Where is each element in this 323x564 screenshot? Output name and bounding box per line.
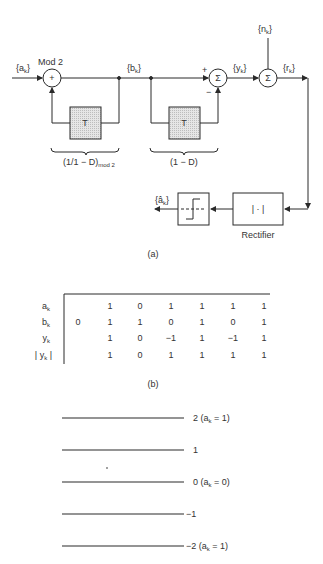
delay2-label: T — [181, 118, 187, 128]
rectifier-label: Rectifier — [241, 230, 274, 240]
feedback-line — [101, 78, 119, 123]
svg-text:1: 1 — [199, 350, 204, 360]
sequence-table: ak 1 0 1 1 1 1 bk 0 1 1 0 1 0 1 yk 1 0 −… — [35, 294, 270, 389]
mod2-label: Mod 2 — [38, 57, 63, 67]
precoder-brace — [51, 148, 119, 155]
svg-text:1: 1 — [107, 317, 112, 327]
svg-text:| yk |: | yk | — [35, 350, 52, 361]
svg-text:1: 1 — [107, 301, 112, 311]
table-row-yk: yk 1 0 −1 1 −1 1 — [43, 333, 267, 344]
level-label-minus2: −2 (ak = 1) — [186, 541, 228, 552]
level-label-minus1: −1 — [186, 509, 196, 519]
feedforward-line — [151, 78, 169, 123]
caption-b: (b) — [148, 379, 159, 389]
svg-text:1: 1 — [230, 350, 235, 360]
sum1-symbol: Σ — [215, 73, 221, 83]
encoder-label: (1 − D) — [170, 157, 198, 167]
svg-text:1: 1 — [137, 317, 142, 327]
table-row-bk: bk 0 1 1 0 1 0 1 — [42, 317, 267, 328]
output-label: {âk} — [155, 195, 169, 206]
svg-text:1: 1 — [261, 350, 266, 360]
svg-text:0: 0 — [230, 317, 235, 327]
svg-text:−1: −1 — [166, 333, 176, 343]
encoder-brace — [150, 148, 218, 155]
svg-text:1: 1 — [199, 301, 204, 311]
duobinary-system-figure: {ak} Mod 2 + T T (1/1 − D)mod 2 (1 − D) … — [0, 0, 323, 564]
y-label: {yk} — [233, 63, 247, 74]
svg-text:1: 1 — [230, 301, 235, 311]
input-label: {ak} — [16, 63, 30, 74]
table-row-abs-yk: | yk | 1 0 1 1 1 1 — [35, 350, 267, 361]
svg-text:1: 1 — [261, 333, 266, 343]
svg-text:1: 1 — [261, 301, 266, 311]
minus-sign: − — [206, 87, 211, 97]
svg-text:−1: −1 — [228, 333, 238, 343]
table-row-ak: ak 1 0 1 1 1 1 — [42, 301, 267, 312]
level-label-0: 0 (ak = 0) — [193, 477, 230, 488]
svg-text:1: 1 — [261, 317, 266, 327]
delay1-label: T — [82, 118, 88, 128]
sum2-symbol: Σ — [265, 73, 271, 83]
svg-text:1: 1 — [199, 317, 204, 327]
adder-plus-symbol: + — [49, 73, 54, 83]
feedback-return — [52, 88, 70, 123]
svg-text:0: 0 — [75, 317, 80, 327]
svg-text:1: 1 — [199, 333, 204, 343]
signal-levels: 2 (ak = 1) 1 0 (ak = 0) −1 −2 (ak = 1) — [62, 413, 230, 552]
stray-dot — [106, 467, 108, 469]
precoder-label: (1/1 − D)mod 2 — [63, 157, 116, 168]
svg-text:ak: ak — [42, 301, 51, 312]
svg-text:0: 0 — [168, 317, 173, 327]
r-label: {rk} — [283, 63, 295, 74]
svg-text:bk: bk — [42, 317, 51, 328]
svg-text:0: 0 — [137, 350, 142, 360]
caption-a: (a) — [148, 249, 159, 259]
svg-text:1: 1 — [107, 333, 112, 343]
level-label-2: 2 (ak = 1) — [193, 413, 230, 424]
svg-text:1: 1 — [168, 301, 173, 311]
plus-sign: + — [202, 65, 207, 75]
svg-text:0: 0 — [137, 301, 142, 311]
b-label: {bk} — [127, 63, 141, 74]
rectifier-symbol: | · | — [252, 204, 265, 214]
noise-label: {nk} — [258, 24, 272, 35]
level-label-1: 1 — [193, 445, 198, 455]
svg-text:0: 0 — [137, 333, 142, 343]
svg-text:1: 1 — [107, 350, 112, 360]
svg-text:yk: yk — [43, 333, 52, 344]
svg-text:1: 1 — [168, 350, 173, 360]
